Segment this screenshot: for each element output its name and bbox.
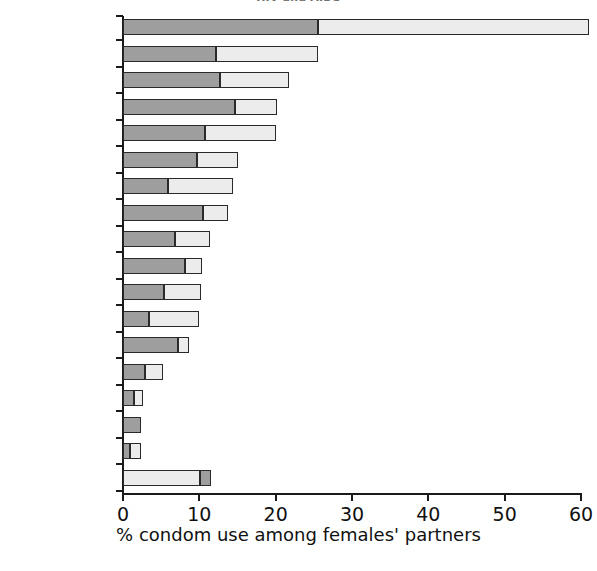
x-tick	[351, 493, 353, 501]
bar-segment-light	[130, 443, 141, 459]
bar-segment-dark	[123, 364, 145, 380]
bar-row: Ethiopia	[123, 440, 581, 466]
x-tick	[275, 493, 277, 501]
y-tick	[116, 463, 123, 465]
bar-segment-light	[145, 364, 163, 380]
bar-segment-dark	[123, 72, 220, 88]
bar-segment-dark	[123, 99, 235, 115]
bar-row: Benin	[123, 228, 581, 254]
bar-segment-light	[123, 470, 200, 486]
bar-row: Kenya	[123, 255, 581, 281]
bar-segment-dark	[123, 337, 178, 353]
bar-segment-light	[185, 258, 203, 274]
bar-row: Mozambique	[123, 175, 581, 201]
x-tick-label: 50	[475, 503, 535, 525]
bar-segment-light	[168, 178, 233, 194]
bar-row: Cameroon	[123, 43, 581, 69]
bar-row: Tanzania	[123, 202, 581, 228]
bar-segment-light	[216, 46, 318, 62]
bar-segment-dark	[123, 231, 175, 247]
bar-segment-light	[175, 231, 210, 247]
y-tick	[116, 15, 123, 17]
y-tick	[116, 66, 123, 68]
bar-segment-dark	[123, 152, 197, 168]
y-tick	[116, 304, 123, 306]
bar-segment-dark	[123, 390, 134, 406]
x-tick	[504, 493, 506, 501]
bar-row: Nigeria	[123, 334, 581, 360]
bar-segment-light	[220, 72, 289, 88]
y-tick	[116, 225, 123, 227]
bar-row: Uganda	[123, 149, 581, 175]
bar-segment-light	[318, 19, 588, 35]
bar-segment-light	[178, 337, 189, 353]
y-tick	[116, 172, 123, 174]
bar-row: Eritrea	[123, 387, 581, 413]
bar-segment-light	[205, 125, 275, 141]
bar-segment-dark	[123, 205, 203, 221]
bar-row: Zimbabwe	[123, 467, 581, 493]
bar-row: South Africa	[123, 16, 581, 42]
plot-area: 0102030405060 South AfricaCameroonGhanaZ…	[123, 16, 581, 494]
x-tick-label: 0	[93, 503, 153, 525]
x-tick	[580, 493, 582, 501]
y-tick	[116, 39, 123, 41]
y-tick	[116, 384, 123, 386]
chart-title: HIV and AIDS	[0, 0, 597, 2]
bar-row: Guinea	[123, 281, 581, 307]
y-tick	[116, 410, 123, 412]
bar-segment-light	[149, 311, 199, 327]
y-tick	[116, 357, 123, 359]
bar-row: Zambia	[123, 96, 581, 122]
bar-segment-dark	[123, 311, 149, 327]
bar-segment-light	[134, 390, 143, 406]
y-tick	[116, 119, 123, 121]
bar-row: Madagascar	[123, 414, 581, 440]
y-tick	[116, 198, 123, 200]
bar-segment-dark	[123, 178, 168, 194]
bar-segment-light	[164, 284, 201, 300]
x-tick-label: 60	[551, 503, 597, 525]
bar-segment-dark	[123, 46, 216, 62]
bar-segment-light	[197, 152, 238, 168]
bar-segment-dark	[123, 417, 141, 433]
bar-row: Burkina Faso	[123, 122, 581, 148]
bar-row: Ghana	[123, 69, 581, 95]
bar-segment-dark	[123, 443, 130, 459]
y-tick	[116, 490, 123, 492]
bar-segment-dark	[123, 284, 164, 300]
x-tick	[427, 493, 429, 501]
bar-segment-dark	[200, 470, 211, 486]
x-tick-label: 20	[246, 503, 306, 525]
bar-row: Mali	[123, 308, 581, 334]
bar-segment-dark	[123, 258, 185, 274]
x-tick-label: 10	[169, 503, 229, 525]
bar-row: Rwanda	[123, 361, 581, 387]
x-tick-label: 30	[322, 503, 382, 525]
y-tick	[116, 437, 123, 439]
y-tick	[116, 145, 123, 147]
bar-segment-dark	[123, 19, 318, 35]
x-axis-label: % condom use among females' partners	[0, 524, 597, 545]
y-tick	[116, 251, 123, 253]
y-tick	[116, 331, 123, 333]
x-tick	[198, 493, 200, 501]
bar-segment-light	[235, 99, 277, 115]
x-tick	[122, 493, 124, 501]
bar-chart: HIV and AIDS 0102030405060 South AfricaC…	[0, 0, 597, 571]
y-tick	[116, 278, 123, 280]
y-tick	[116, 92, 123, 94]
bar-segment-dark	[123, 125, 205, 141]
x-tick-label: 40	[398, 503, 458, 525]
bar-segment-light	[203, 205, 228, 221]
